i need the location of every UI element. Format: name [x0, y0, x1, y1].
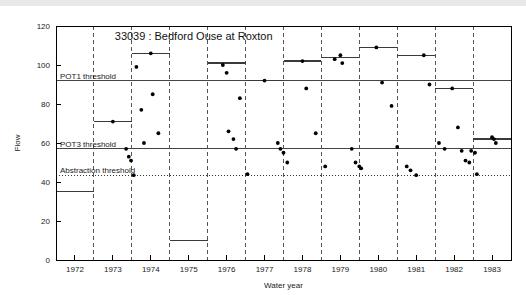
- x-tick-label-1978: 1978: [294, 265, 312, 274]
- data-point: [409, 168, 413, 172]
- data-point: [380, 81, 384, 85]
- data-point: [414, 173, 418, 177]
- data-point: [234, 147, 238, 151]
- data-point: [134, 65, 138, 69]
- data-point: [359, 166, 363, 170]
- data-point: [340, 61, 344, 65]
- data-point: [467, 161, 471, 165]
- x-tick-label-1974: 1974: [142, 265, 160, 274]
- x-axis-title: Water year: [264, 281, 303, 290]
- data-point: [333, 57, 337, 61]
- label-group: 0204060801001201972197319741975197619771…: [13, 22, 501, 290]
- data-point: [282, 151, 286, 155]
- data-point: [428, 83, 432, 87]
- data-point: [405, 165, 409, 169]
- y-tick-label-20: 20: [41, 217, 50, 226]
- y-tick-label-60: 60: [41, 139, 50, 148]
- data-point: [354, 161, 358, 165]
- data-point: [422, 53, 426, 57]
- threshold-label-1: POT3 threshold: [60, 140, 116, 149]
- data-point: [151, 92, 155, 96]
- data-point: [475, 172, 479, 176]
- data-point: [227, 129, 231, 133]
- data-point: [263, 79, 267, 83]
- data-point: [304, 87, 308, 91]
- y-tick-label-40: 40: [41, 178, 50, 187]
- data-point: [285, 161, 289, 165]
- y-tick-label-100: 100: [37, 61, 51, 70]
- y-tick-label-120: 120: [37, 22, 51, 31]
- x-tick-label-1981: 1981: [407, 265, 425, 274]
- data-point: [127, 155, 131, 159]
- data-point: [469, 149, 473, 153]
- data-point: [450, 87, 454, 91]
- flow-scatter-chart: 0204060801001201972197319741975197619771…: [0, 0, 526, 295]
- x-tick-label-1980: 1980: [369, 265, 387, 274]
- x-tick-label-1973: 1973: [104, 265, 122, 274]
- data-point: [314, 131, 318, 135]
- data-point: [456, 126, 460, 130]
- data-point: [156, 131, 160, 135]
- data-point: [492, 137, 496, 141]
- y-axis-title: Flow: [13, 134, 22, 151]
- threshold-label-2: Abstraction threshold: [60, 166, 135, 175]
- data-point: [149, 51, 153, 55]
- data-point: [395, 145, 399, 149]
- x-tick-label-1979: 1979: [331, 265, 349, 274]
- data-point: [390, 104, 394, 108]
- data-point: [279, 147, 283, 151]
- data-point: [142, 141, 146, 145]
- x-tick-label-1972: 1972: [66, 265, 84, 274]
- data-point: [221, 63, 225, 67]
- data-point: [374, 46, 378, 50]
- data-point: [323, 165, 327, 169]
- data-point: [276, 141, 280, 145]
- y-tick-label-80: 80: [41, 100, 50, 109]
- data-point: [338, 53, 342, 57]
- chart-container: 0204060801001201972197319741975197619771…: [0, 0, 526, 295]
- data-point: [246, 172, 250, 176]
- data-point: [232, 137, 236, 141]
- data-point: [124, 147, 128, 151]
- data-point: [350, 147, 354, 151]
- chart-title: 33039 : Bedford Ouse at Roxton: [115, 30, 273, 42]
- x-tick-label-1975: 1975: [180, 265, 198, 274]
- data-point: [129, 159, 133, 163]
- threshold-label-0: POT1 threshold: [60, 72, 116, 81]
- x-tick-label-1983: 1983: [483, 265, 501, 274]
- x-tick-label-1977: 1977: [256, 265, 274, 274]
- data-point: [301, 59, 305, 63]
- data-point: [464, 159, 468, 163]
- data-point: [225, 71, 229, 75]
- window-top-bar: [0, 0, 526, 6]
- x-tick-label-1976: 1976: [218, 265, 236, 274]
- data-point: [139, 108, 143, 112]
- data-point: [437, 141, 441, 145]
- data-point: [111, 120, 115, 124]
- y-tick-label-0: 0: [46, 256, 51, 265]
- data-point-group: [111, 46, 498, 178]
- data-point: [473, 151, 477, 155]
- data-point: [494, 141, 498, 145]
- x-tick-label-1982: 1982: [445, 265, 463, 274]
- data-point: [238, 96, 242, 100]
- data-point: [443, 147, 447, 151]
- data-point: [460, 149, 464, 153]
